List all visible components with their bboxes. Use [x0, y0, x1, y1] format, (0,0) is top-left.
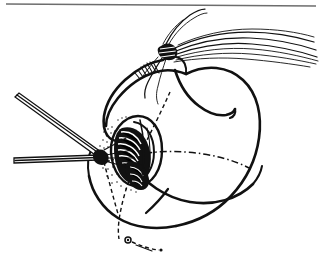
suture-bundle-fan: [174, 29, 318, 67]
forceps-upper[interactable]: [15, 93, 101, 157]
surgical-illustration: [0, 0, 321, 264]
forceps-lower[interactable]: [14, 155, 98, 163]
organ-hilum-notch: [175, 70, 235, 118]
header-rule: [6, 4, 316, 6]
figure-root: [0, 0, 321, 264]
suture-knot: [158, 44, 178, 61]
marker-node: [125, 237, 163, 252]
